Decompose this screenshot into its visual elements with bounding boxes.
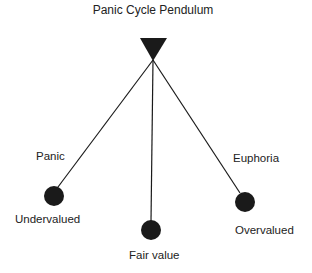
pivot-triangle-icon	[140, 38, 167, 61]
right-bob	[235, 192, 255, 212]
pendulum-diagram: Panic Cycle Pendulum Panic Euphoria Unde…	[0, 0, 312, 273]
center-string	[151, 60, 153, 221]
left-string	[58, 60, 153, 187]
diagram-title: Panic Cycle Pendulum	[0, 4, 306, 17]
overvalued-label: Overvalued	[235, 224, 294, 237]
right-string	[153, 60, 240, 193]
undervalued-label: Undervalued	[15, 213, 80, 226]
panic-label: Panic	[36, 150, 65, 163]
euphoria-label: Euphoria	[233, 152, 279, 165]
left-bob	[44, 186, 64, 206]
center-bob	[141, 220, 161, 240]
fair-value-label: Fair value	[129, 249, 180, 262]
